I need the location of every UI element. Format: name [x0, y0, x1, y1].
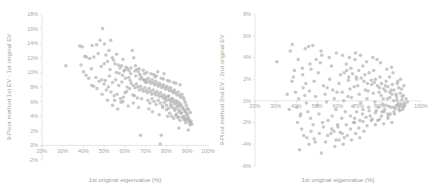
data-point	[96, 52, 100, 56]
data-point	[347, 75, 351, 79]
data-point	[156, 98, 160, 102]
data-point	[366, 82, 370, 86]
data-point	[355, 77, 359, 81]
data-point	[320, 54, 324, 58]
data-point	[289, 49, 293, 53]
data-point	[346, 95, 350, 99]
data-point	[178, 83, 182, 87]
data-point	[340, 116, 344, 120]
data-point	[147, 107, 151, 111]
data-point	[114, 78, 118, 82]
data-point	[319, 61, 323, 65]
data-point	[326, 119, 330, 123]
data-point	[122, 69, 126, 73]
data-point	[344, 110, 348, 114]
data-point	[381, 102, 385, 106]
data-point	[134, 74, 138, 78]
data-point	[111, 104, 115, 108]
data-point	[380, 82, 384, 86]
data-point	[169, 104, 173, 108]
data-point	[367, 109, 371, 113]
data-point	[349, 67, 353, 71]
data-point	[374, 123, 378, 127]
data-point	[139, 133, 143, 137]
data-point	[355, 110, 359, 114]
y-tick-label: -2%	[241, 119, 251, 125]
data-point	[177, 115, 181, 119]
data-point	[302, 134, 306, 138]
data-point	[117, 71, 121, 75]
data-point	[111, 81, 115, 85]
data-point	[390, 65, 394, 69]
data-point	[373, 100, 377, 104]
data-point	[375, 58, 379, 62]
x-axis-title: 1st original eigenvalue (%)	[89, 176, 162, 183]
data-point	[115, 52, 119, 56]
data-point	[185, 117, 189, 121]
x-tick-label: 40%	[78, 148, 89, 154]
data-point	[137, 106, 141, 110]
data-point	[383, 108, 387, 112]
data-point	[382, 87, 386, 91]
data-point	[165, 108, 169, 112]
data-point	[365, 124, 369, 128]
data-point	[87, 76, 91, 80]
data-point	[88, 57, 92, 61]
data-point	[367, 106, 371, 110]
data-point	[351, 105, 355, 109]
data-point	[285, 93, 289, 97]
data-point	[308, 89, 312, 93]
data-point	[353, 121, 357, 125]
data-point	[129, 66, 133, 70]
data-point	[400, 87, 404, 91]
data-point	[358, 119, 362, 123]
data-point	[379, 61, 383, 65]
data-point	[342, 136, 346, 140]
data-point	[357, 93, 361, 97]
data-point	[164, 97, 168, 101]
data-point	[340, 90, 344, 94]
y-tick-label: 6%	[243, 33, 251, 39]
data-point	[131, 49, 135, 53]
data-point	[368, 114, 372, 118]
data-point	[131, 93, 135, 97]
data-point	[326, 134, 330, 138]
x-axis-title: 1st original eigenvalue (%)	[302, 176, 375, 183]
data-point	[300, 127, 304, 131]
data-point	[106, 98, 110, 102]
data-point	[309, 130, 313, 134]
data-point	[350, 96, 354, 100]
data-point	[386, 114, 390, 118]
data-point	[180, 112, 184, 116]
data-point	[365, 97, 369, 101]
data-point	[99, 65, 103, 69]
data-point	[98, 39, 102, 43]
data-point	[388, 75, 392, 79]
data-point	[120, 64, 124, 68]
data-point	[150, 97, 154, 101]
data-point	[330, 114, 334, 118]
data-point	[341, 54, 345, 58]
data-point	[143, 72, 147, 76]
data-point	[349, 127, 353, 131]
data-point	[380, 114, 384, 118]
data-point	[301, 67, 305, 71]
data-point	[189, 121, 193, 125]
x-tick-label: 90%	[182, 148, 193, 154]
data-point	[337, 138, 341, 142]
data-point	[292, 75, 296, 79]
data-point	[311, 123, 315, 127]
data-point	[359, 76, 363, 80]
data-point	[390, 121, 394, 125]
x-tick-label: 20%	[37, 148, 48, 154]
data-point	[308, 62, 312, 66]
x-tick-label: 30%	[270, 103, 281, 109]
data-point	[154, 103, 158, 107]
data-point	[348, 56, 352, 60]
data-point	[113, 98, 117, 102]
data-point	[128, 87, 132, 91]
data-point	[319, 49, 323, 53]
data-point	[381, 97, 385, 101]
data-point	[320, 151, 324, 155]
data-point	[295, 106, 299, 110]
